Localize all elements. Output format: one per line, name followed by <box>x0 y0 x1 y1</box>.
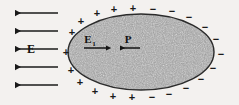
minus-sign: − <box>218 48 224 60</box>
plus-sign: + <box>129 91 135 103</box>
plus-sign: + <box>94 7 100 19</box>
plus-sign: + <box>78 15 84 27</box>
minus-sign: − <box>198 73 204 85</box>
plus-sign: + <box>111 3 117 15</box>
minus-sign: − <box>149 91 155 103</box>
plus-sign: + <box>130 2 136 14</box>
minus-sign: − <box>166 88 172 100</box>
plus-sign: + <box>110 90 116 102</box>
minus-sign: − <box>150 3 156 15</box>
plus-sign: + <box>69 26 75 38</box>
minus-sign: − <box>210 62 216 74</box>
polarization-label: P <box>125 33 132 45</box>
internal-field-label: E <box>84 33 91 45</box>
minus-sign: − <box>183 82 189 94</box>
minus-sign: − <box>169 5 175 17</box>
external-field-label: E <box>27 42 35 56</box>
internal-field-subscript: 1 <box>92 40 96 48</box>
minus-sign: − <box>186 11 192 23</box>
plus-sign: + <box>68 64 74 76</box>
plus-sign: + <box>92 85 98 97</box>
plus-sign: + <box>77 76 83 88</box>
plus-sign: + <box>63 46 69 58</box>
minus-sign: − <box>213 33 219 45</box>
figure-canvas: E E 1 P + + + + + + + + + + <box>0 0 239 105</box>
dielectric-body <box>68 14 214 90</box>
physics-figure-dielectric-ellipsoid: E E 1 P + + + + + + + + + + <box>0 0 239 105</box>
minus-sign: − <box>202 21 208 33</box>
